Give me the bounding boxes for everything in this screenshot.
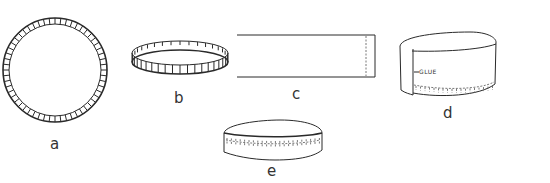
panel-c-label: c	[292, 85, 300, 103]
panel-c-paper-strip	[237, 35, 375, 77]
panel-d-cylinder-band: GLUE	[400, 32, 496, 96]
panel-e-flat-cylinder	[224, 120, 322, 160]
panel-a-serrated-circle	[3, 18, 107, 122]
panel-b-notched-ring	[132, 41, 228, 74]
diagram-canvas: a b c GLUE d e	[0, 0, 550, 183]
glue-annotation: GLUE	[419, 68, 437, 75]
panel-b-label: b	[174, 89, 184, 107]
panel-a-label: a	[50, 135, 59, 153]
panel-d-label: d	[443, 104, 453, 122]
panel-e-label: e	[267, 162, 276, 180]
